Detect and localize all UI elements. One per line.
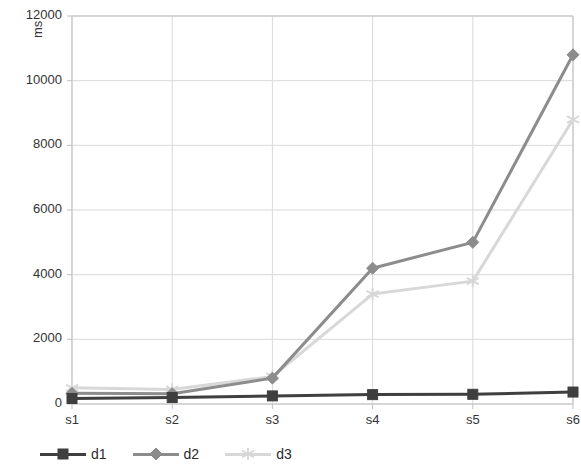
series-d3 bbox=[66, 113, 579, 395]
legend-label-d1: d1 bbox=[91, 446, 107, 462]
y-axis-tick-label: 6000 bbox=[0, 201, 62, 216]
chart-container: ms 020004000600080001000012000 s1s2s3s4s… bbox=[0, 0, 581, 470]
series-line-d2 bbox=[72, 55, 573, 394]
legend-swatch-d2 bbox=[133, 447, 179, 461]
chart-legend: d1d2d3 bbox=[40, 443, 340, 465]
legend-marker-d2 bbox=[150, 448, 162, 460]
y-axis-tick-label: 0 bbox=[0, 395, 62, 410]
data-marker-square bbox=[368, 390, 378, 400]
chart-plot-area bbox=[0, 0, 581, 470]
y-axis-tick-label: 2000 bbox=[0, 330, 62, 345]
y-axis-tick-label: 4000 bbox=[0, 266, 62, 281]
legend-item-d2[interactable]: d2 bbox=[133, 446, 200, 462]
series-d2 bbox=[66, 49, 579, 400]
legend-marker-d3 bbox=[242, 448, 254, 460]
data-marker-diamond bbox=[467, 236, 479, 248]
data-marker-star bbox=[242, 448, 254, 460]
legend-item-d3[interactable]: d3 bbox=[225, 446, 292, 462]
y-axis-tick-label: 10000 bbox=[0, 72, 62, 87]
gridlines bbox=[72, 16, 573, 404]
data-marker-square bbox=[468, 389, 478, 399]
data-marker-diamond bbox=[567, 49, 579, 61]
legend-item-d1[interactable]: d1 bbox=[40, 446, 107, 462]
data-series bbox=[66, 49, 579, 404]
y-axis-unit-label: ms bbox=[30, 21, 45, 38]
y-axis-tick-label: 8000 bbox=[0, 136, 62, 151]
series-line-d3 bbox=[72, 119, 573, 389]
legend-label-d2: d2 bbox=[184, 446, 200, 462]
legend-label-d3: d3 bbox=[276, 446, 292, 462]
legend-swatch-d3 bbox=[225, 447, 271, 461]
x-axis-tick-label: s2 bbox=[147, 412, 197, 427]
x-axis-tick-label: s4 bbox=[348, 412, 398, 427]
x-axis-tick-label: s3 bbox=[247, 412, 297, 427]
data-marker-square bbox=[267, 391, 277, 401]
x-axis-tick-label: s1 bbox=[47, 412, 97, 427]
legend-marker-d1 bbox=[57, 448, 69, 460]
x-axis-tick-label: s5 bbox=[448, 412, 498, 427]
data-marker-square bbox=[568, 387, 578, 397]
data-marker-square bbox=[58, 449, 68, 459]
data-marker-square bbox=[167, 393, 177, 403]
y-axis-tick-label: 12000 bbox=[0, 7, 62, 22]
data-marker-square bbox=[67, 394, 77, 404]
data-marker-diamond bbox=[150, 448, 162, 460]
x-axis-tick-label: s6 bbox=[548, 412, 581, 427]
axis-ticks bbox=[67, 16, 573, 409]
legend-swatch-d1 bbox=[40, 447, 86, 461]
